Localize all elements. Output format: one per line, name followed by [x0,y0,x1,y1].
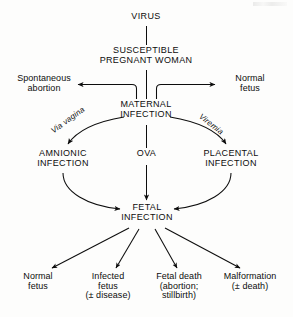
node-malformation: Malformation (± death) [209,272,291,291]
edge-fetal-to-malformation [165,228,240,268]
node-placental-infection: PLACENTAL INFECTION [190,149,272,168]
node-normal-fetus-lower: Normal fetus [7,272,69,291]
node-susceptible-pregnant-woman: SUSCEPTIBLE PREGNANT WOMAN [81,46,211,65]
node-ova: OVA [124,149,169,159]
edge-woman-to-normal-fetus [157,85,216,100]
node-spontaneous-abortion: Spontaneous abortion [10,74,78,93]
edge-fetal-to-fetal-death [155,229,177,268]
node-amnionic-infection: AMNIONIC INFECTION [22,149,104,168]
edge-maternal-to-amnionic [68,117,124,144]
node-virus: VIRUS [106,12,186,22]
edge-woman-to-spontaneous-abortion [78,85,137,100]
node-infected-fetus: Infected fetus (± disease) [73,272,143,301]
node-normal-fetus-upper: Normal fetus [220,74,280,93]
node-fetal-infection: FETAL INFECTION [111,203,183,222]
edge-fetal-to-infected-fetus [116,229,139,268]
flowchart-canvas: VIRUS SUSCEPTIBLE PREGNANT WOMAN MATERNA… [0,0,293,317]
node-maternal-infection: MATERNAL INFECTION [106,100,186,119]
edge-fetal-to-normal-fetus [52,228,129,268]
node-fetal-death: Fetal death (abortion; stillbirth) [140,272,218,301]
